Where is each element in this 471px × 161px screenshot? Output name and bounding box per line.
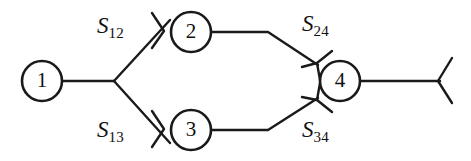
edge-label-s34: S34 [302,118,329,145]
arrowhead-s12-icon [152,13,164,48]
signal-flow-diagram: 1 2 3 4 S12 S24 S13 S34 [0,0,471,161]
edge-label-s13: S13 [97,118,124,145]
edge-label-s13-base: S [97,117,109,142]
edge-label-s34-subscript: 34 [314,129,330,145]
node-4-label: 4 [335,68,346,92]
edge-label-s24-base: S [302,11,314,36]
edge-label-s24-subscript: 24 [314,23,330,39]
diagram-canvas: 1 2 3 4 [0,0,471,161]
edge-label-s34-base: S [302,117,314,142]
edge-label-s12-subscript: 12 [109,25,125,41]
edge-label-s12-base: S [97,13,109,38]
edge-label-s24: S24 [302,12,329,39]
node-1-label: 1 [37,68,48,92]
edge-label-s12: S12 [97,14,124,41]
node-3-label: 3 [186,117,197,141]
edge-label-s13-subscript: 13 [109,129,125,145]
node-2-label: 2 [186,19,197,43]
